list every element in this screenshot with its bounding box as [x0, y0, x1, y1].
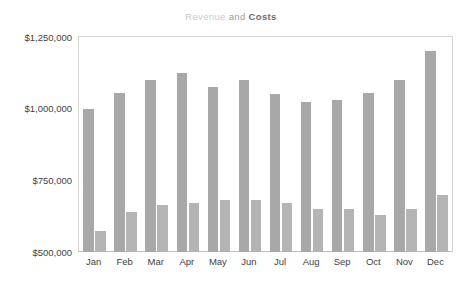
x-tick-label-aug: Aug [296, 256, 327, 268]
bar-costs-sep[interactable] [344, 209, 355, 252]
x-axis: JanFebMarAprMayJunJulAugSepOctNovDec [78, 256, 453, 274]
bar-costs-nov[interactable] [406, 209, 417, 252]
x-tick-label-apr: Apr [171, 256, 202, 268]
bar-costs-jun[interactable] [251, 200, 262, 252]
bar-revenue-sep[interactable] [332, 100, 343, 252]
bar-costs-may[interactable] [220, 200, 231, 252]
y-axis: $500,000$750,000$1,000,000$1,250,000 [0, 0, 72, 288]
y-tick-label: $1,000,000 [0, 103, 72, 114]
y-tick-label: $750,000 [0, 175, 72, 186]
x-tick-label-oct: Oct [358, 256, 389, 268]
x-tick-label-may: May [202, 256, 233, 268]
x-tick-label-nov: Nov [389, 256, 420, 268]
x-tick-label-dec: Dec [420, 256, 451, 268]
x-tick-label-sep: Sep [327, 256, 358, 268]
bar-revenue-may[interactable] [208, 87, 219, 252]
bar-chart: Revenue and Costs $500,000$750,000$1,000… [0, 0, 462, 288]
bar-revenue-aug[interactable] [301, 102, 312, 253]
y-tick-label: $500,000 [0, 247, 72, 258]
x-tick-label-feb: Feb [109, 256, 140, 268]
bar-costs-jan[interactable] [95, 231, 106, 253]
bar-costs-oct[interactable] [375, 215, 386, 252]
bar-revenue-jun[interactable] [239, 80, 250, 252]
bar-costs-jul[interactable] [282, 203, 293, 252]
chart-title-series-b: Costs [249, 11, 277, 22]
bar-revenue-apr[interactable] [177, 73, 188, 252]
bar-costs-dec[interactable] [437, 195, 448, 252]
chart-title-conjunction: and [226, 11, 249, 22]
bar-revenue-dec[interactable] [425, 51, 436, 252]
bar-revenue-jul[interactable] [270, 94, 281, 252]
y-tick-label: $1,250,000 [0, 32, 72, 43]
bar-costs-feb[interactable] [126, 212, 137, 252]
bar-revenue-nov[interactable] [394, 80, 405, 252]
chart-title-series-a: Revenue [185, 11, 225, 22]
bars-layer [79, 37, 452, 252]
bar-revenue-feb[interactable] [114, 93, 125, 252]
x-tick-label-jan: Jan [78, 256, 109, 268]
x-tick-label-jun: Jun [233, 256, 264, 268]
bar-revenue-jan[interactable] [83, 109, 94, 252]
bar-costs-aug[interactable] [313, 209, 324, 252]
bar-revenue-mar[interactable] [145, 80, 156, 252]
x-tick-label-mar: Mar [140, 256, 171, 268]
bar-costs-apr[interactable] [189, 203, 200, 252]
x-tick-label-jul: Jul [265, 256, 296, 268]
bar-costs-mar[interactable] [157, 205, 168, 252]
bar-revenue-oct[interactable] [363, 93, 374, 252]
